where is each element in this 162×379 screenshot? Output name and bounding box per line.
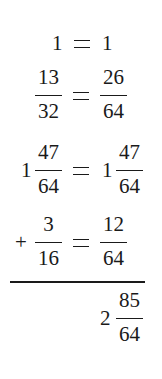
row-4-plus-sign: + [15, 232, 27, 253]
denominator: 64 [100, 101, 127, 122]
fraction-bar [116, 318, 143, 319]
row-1-right-whole: 1 [102, 33, 113, 54]
fraction-bar [35, 170, 62, 171]
denominator: 64 [35, 176, 62, 197]
row-2-equals-sign [73, 92, 89, 100]
row-2-left-fraction: 13 32 [35, 67, 62, 125]
row-3-equals-sign [73, 167, 89, 175]
fraction-bar [35, 242, 62, 243]
denominator: 64 [116, 324, 143, 345]
row-4-equals-sign [73, 239, 89, 247]
numerator: 47 [116, 142, 143, 163]
numerator: 12 [100, 214, 127, 235]
fraction-bar [100, 242, 127, 243]
row-1-left-whole: 1 [52, 33, 63, 54]
denominator: 64 [100, 248, 127, 269]
fraction-bar [116, 170, 143, 171]
row-3-left-fraction: 47 64 [35, 142, 62, 200]
numerator: 85 [116, 290, 143, 311]
row-3-right-whole: 1 [102, 160, 113, 181]
row-2-right-fraction: 26 64 [100, 67, 127, 125]
fraction-bar [100, 95, 127, 96]
row-3-right-fraction: 47 64 [116, 142, 143, 200]
denominator: 64 [116, 176, 143, 197]
sum-rule-line [10, 281, 145, 283]
numerator: 47 [35, 142, 62, 163]
row-4-left-fraction: 3 16 [35, 214, 62, 272]
row-3-left-whole: 1 [21, 160, 32, 181]
numerator: 13 [35, 67, 62, 88]
denominator: 16 [35, 248, 62, 269]
row-4-right-fraction: 12 64 [100, 214, 127, 272]
numerator: 3 [35, 214, 62, 235]
result-whole: 2 [100, 308, 111, 329]
fraction-bar [35, 95, 62, 96]
denominator: 32 [35, 101, 62, 122]
row-1-equals-sign [74, 40, 90, 48]
result-fraction: 85 64 [116, 290, 143, 348]
numerator: 26 [100, 67, 127, 88]
